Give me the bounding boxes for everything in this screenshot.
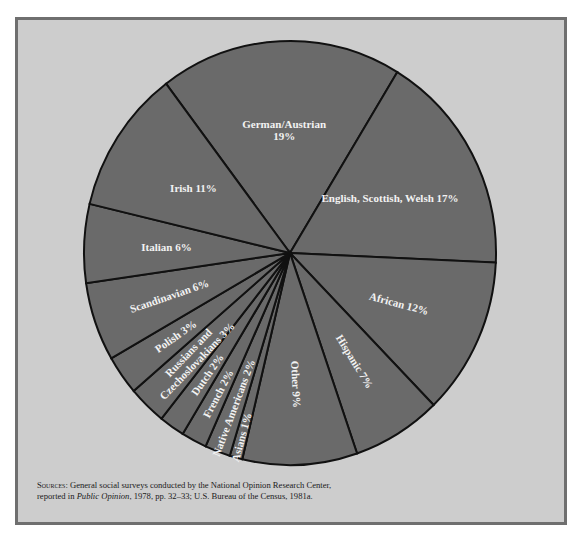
slice-label-line: English, Scottish, Welsh 17% — [322, 192, 459, 204]
source-text-2: , 1978, pp. 32–33; U.S. Bureau of the Ce… — [129, 491, 312, 501]
slice-label-line: Italian 6% — [141, 241, 191, 253]
slice-label-line: 19% — [273, 130, 295, 142]
slice-label: English, Scottish, Welsh 17% — [322, 192, 459, 204]
slice-label: Other 9% — [289, 360, 303, 408]
slice-label: Irish 11% — [170, 182, 217, 194]
slice-label: Italian 6% — [141, 241, 191, 253]
source-italic: Public Opinion — [77, 491, 130, 501]
pie-chart: German/Austrian19%English, Scottish, Wel… — [0, 0, 579, 537]
source-note: Sources: General social surveys conducte… — [37, 480, 337, 502]
slice-label-line: Irish 11% — [170, 182, 217, 194]
source-prefix: Sources: — [37, 480, 68, 490]
slice-label-line: Other 9% — [289, 360, 303, 408]
slice-label-line: German/Austrian — [242, 118, 326, 130]
